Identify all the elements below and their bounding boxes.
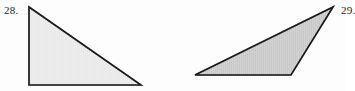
figure-28-label: 28. (4, 5, 18, 16)
figure-29: 29. (173, 0, 346, 91)
figure-28: 28. (0, 0, 173, 91)
figure-29-label: 29. (341, 5, 355, 16)
